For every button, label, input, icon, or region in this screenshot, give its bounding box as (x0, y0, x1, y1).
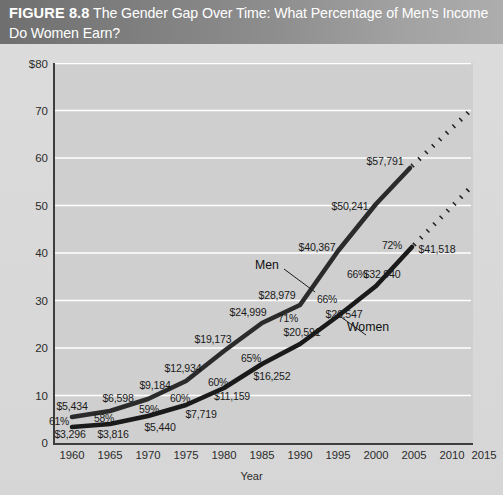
chart-svg (53, 63, 471, 444)
women-value-label: $3,296 (54, 428, 85, 440)
women-value-label: $7,719 (185, 408, 216, 420)
gridlines (55, 64, 471, 396)
y-tick-label: 20 (6, 342, 48, 354)
y-tick-label: 40 (6, 247, 48, 259)
women-value-label: $3,816 (97, 428, 128, 440)
ratio-percent-label: 60% (208, 377, 228, 388)
men-value-label: $9,184 (139, 379, 170, 391)
y-tick-label: 70 (6, 105, 48, 117)
men-value-label: $28,979 (259, 289, 296, 301)
ratio-percent-label: 66% (347, 269, 367, 280)
y-axis-ticks (53, 64, 54, 442)
plot-area (53, 63, 471, 443)
y-tick-label: 10 (6, 390, 48, 402)
series-label-men: Men (255, 258, 279, 272)
men-value-label: $24,999 (230, 306, 267, 318)
x-tick-label: 2015 (462, 449, 503, 461)
men-value-label: $57,791 (367, 155, 404, 167)
ratio-percent-label: 66% (317, 294, 337, 305)
men-value-label: $19,173 (195, 333, 232, 345)
men-value-label: $50,241 (332, 200, 369, 212)
figure-header-text: FIGURE 8.8 The Gender Gap Over Time: Wha… (9, 3, 495, 43)
women-value-label: $32,940 (364, 268, 401, 280)
figure-number: FIGURE 8.8 (9, 5, 89, 21)
figure-container: FIGURE 8.8 The Gender Gap Over Time: Wha… (0, 0, 503, 495)
ratio-percent-label: 72% (382, 240, 402, 251)
y-tick-label: 0 (6, 437, 48, 449)
y-tick-label: $80 (6, 58, 48, 70)
men-value-label: $40,367 (299, 241, 336, 253)
men-value-label: $5,434 (56, 400, 87, 412)
women-value-label: $16,252 (254, 370, 291, 382)
women-value-label: $11,159 (214, 390, 250, 402)
series-label-women: Women (347, 320, 389, 334)
women-value-label: $5,440 (144, 421, 175, 433)
ratio-percent-label: 58% (94, 413, 114, 424)
women-value-label: $41,518 (419, 243, 456, 255)
x-axis-ticks (72, 443, 471, 444)
women-value-label: $20,591 (284, 326, 321, 338)
ratio-percent-label: 71% (278, 313, 298, 324)
women-value-label: $26,547 (326, 308, 363, 320)
x-axis-title: Year (0, 470, 503, 482)
y-tick-label: 50 (6, 200, 48, 212)
ratio-percent-label: 59% (139, 404, 159, 415)
men-value-label: $12,934 (165, 362, 202, 374)
ratio-percent-label: 61% (49, 416, 69, 427)
ratio-percent-label: 65% (241, 353, 261, 364)
figure-header-banner: FIGURE 8.8 The Gender Gap Over Time: Wha… (0, 0, 503, 44)
women-projection-line (414, 187, 471, 245)
y-tick-label: 30 (6, 295, 48, 307)
y-tick-label: 60 (6, 152, 48, 164)
ratio-percent-label: 60% (170, 393, 190, 404)
men-value-label: $6,598 (102, 392, 133, 404)
